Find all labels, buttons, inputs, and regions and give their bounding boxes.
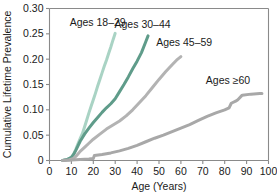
x-tick-label: 20 [87,165,99,177]
x-tick-label: 70 [197,165,209,177]
cumulative-prevalence-chart: 00.050.100.150.200.250.30010203040506070… [0,0,277,196]
y-tick-label: 0.10 [23,103,44,115]
y-tick-label: 0.15 [23,78,44,90]
x-tick-label: 50 [153,165,165,177]
y-axis-title: Cumulative Lifetime Prevalence [1,11,13,159]
x-tick-label: 60 [175,165,187,177]
x-tick-label: 40 [131,165,143,177]
series-line-3 [63,57,181,161]
series-label-3: Ages 45–59 [156,36,212,48]
x-tick-label: 90 [241,165,253,177]
series-label-4: Ages ≥60 [206,74,250,86]
y-tick-label: 0 [38,154,44,166]
x-tick-label: 80 [219,165,231,177]
series-label-2: Ages 30–44 [115,18,171,30]
series-line-2 [63,36,148,161]
x-tick-label: 100 [260,165,277,177]
x-tick-label: 30 [109,165,121,177]
y-tick-label: 0.05 [23,129,44,141]
x-axis-title: Age (Years) [131,180,186,192]
y-tick-label: 0.30 [23,2,44,14]
x-tick-label: 0 [47,165,53,177]
chart-container: 00.050.100.150.200.250.30010203040506070… [0,0,277,196]
y-tick-label: 0.20 [23,53,44,65]
y-tick-label: 0.25 [23,27,44,39]
x-tick-label: 10 [66,165,78,177]
